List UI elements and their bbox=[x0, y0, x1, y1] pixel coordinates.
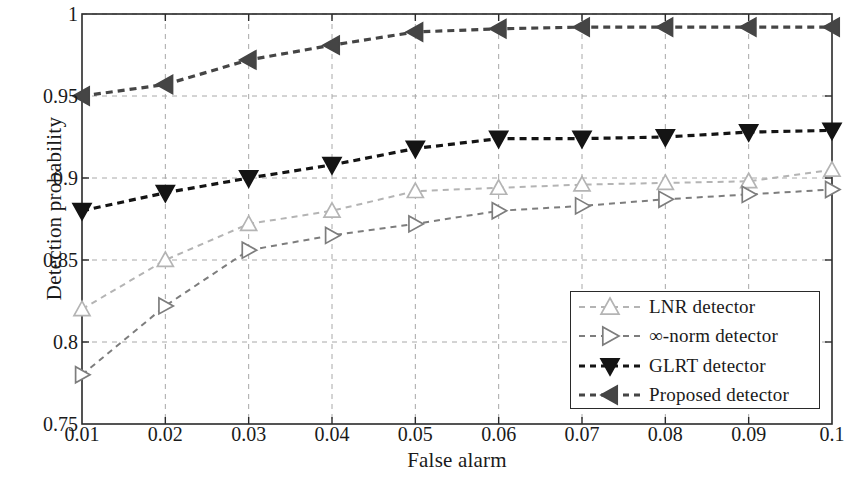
series-line bbox=[82, 27, 832, 96]
data-point-marker bbox=[323, 158, 341, 174]
legend-label: LNR detector bbox=[649, 296, 755, 318]
data-point-marker bbox=[823, 18, 839, 36]
legend-item: LNR detector bbox=[571, 292, 819, 322]
data-point-marker bbox=[659, 191, 673, 207]
data-point-marker bbox=[240, 171, 258, 187]
chart-legend: LNR detector∞-norm detectorGLRT detector… bbox=[570, 291, 820, 409]
data-point-marker bbox=[492, 203, 506, 219]
legend-label: ∞-norm detector bbox=[649, 325, 778, 347]
series-proposed-detector bbox=[73, 18, 839, 105]
x-tick-label: 0.08 bbox=[630, 424, 700, 444]
data-point-marker bbox=[409, 216, 423, 232]
data-point-marker bbox=[240, 51, 256, 69]
data-point-marker bbox=[323, 36, 339, 54]
x-tick-label: 0.02 bbox=[130, 424, 200, 444]
data-point-marker bbox=[573, 18, 589, 36]
legend-label: GLRT detector bbox=[649, 355, 766, 377]
legend-sample-icon bbox=[577, 294, 643, 320]
x-tick-label: 0.09 bbox=[714, 424, 784, 444]
data-point-marker bbox=[824, 162, 840, 176]
data-point-marker bbox=[491, 180, 507, 194]
series-line bbox=[82, 130, 832, 210]
data-point-marker bbox=[406, 141, 424, 157]
data-point-marker bbox=[406, 23, 422, 41]
legend-sample-icon bbox=[577, 382, 643, 408]
data-point-marker bbox=[576, 198, 590, 214]
legend-sample-icon bbox=[577, 323, 643, 349]
x-tick-label: 0.04 bbox=[297, 424, 367, 444]
data-point-marker bbox=[656, 130, 674, 146]
y-tick-label: 1 bbox=[8, 4, 78, 24]
legend-marker bbox=[601, 386, 617, 404]
legend-marker bbox=[603, 327, 619, 345]
detection-probability-chart: 0.750.80.850.90.951 0.010.020.030.040.05… bbox=[0, 0, 853, 477]
series-line bbox=[82, 170, 832, 309]
data-point-marker bbox=[490, 131, 508, 147]
legend-label: Proposed detector bbox=[649, 384, 789, 406]
x-tick-label: 0.06 bbox=[464, 424, 534, 444]
y-axis-label: Detection probability bbox=[42, 59, 67, 359]
data-point-marker bbox=[573, 131, 591, 147]
legend-item: GLRT detector bbox=[571, 351, 819, 381]
data-point-marker bbox=[490, 20, 506, 38]
data-point-marker bbox=[740, 18, 756, 36]
legend-item: ∞-norm detector bbox=[571, 322, 819, 352]
x-axis-label: False alarm bbox=[82, 448, 832, 473]
x-tick-label: 0.07 bbox=[547, 424, 617, 444]
data-point-marker bbox=[742, 186, 756, 202]
data-point-marker bbox=[157, 252, 173, 266]
x-tick-label: 0.03 bbox=[214, 424, 284, 444]
data-point-marker bbox=[156, 76, 172, 94]
x-tick-label: 0.05 bbox=[380, 424, 450, 444]
data-point-marker bbox=[656, 18, 672, 36]
data-point-marker bbox=[241, 216, 257, 230]
data-point-marker bbox=[159, 298, 173, 314]
x-tick-label: 0.01 bbox=[47, 424, 117, 444]
data-point-marker bbox=[242, 242, 256, 258]
series-glrt-detector bbox=[73, 123, 841, 220]
data-point-marker bbox=[326, 227, 340, 243]
x-tick-label: 0.1 bbox=[797, 424, 853, 444]
data-point-marker bbox=[657, 175, 673, 189]
legend-sample-icon bbox=[577, 353, 643, 379]
legend-item: Proposed detector bbox=[571, 381, 819, 411]
